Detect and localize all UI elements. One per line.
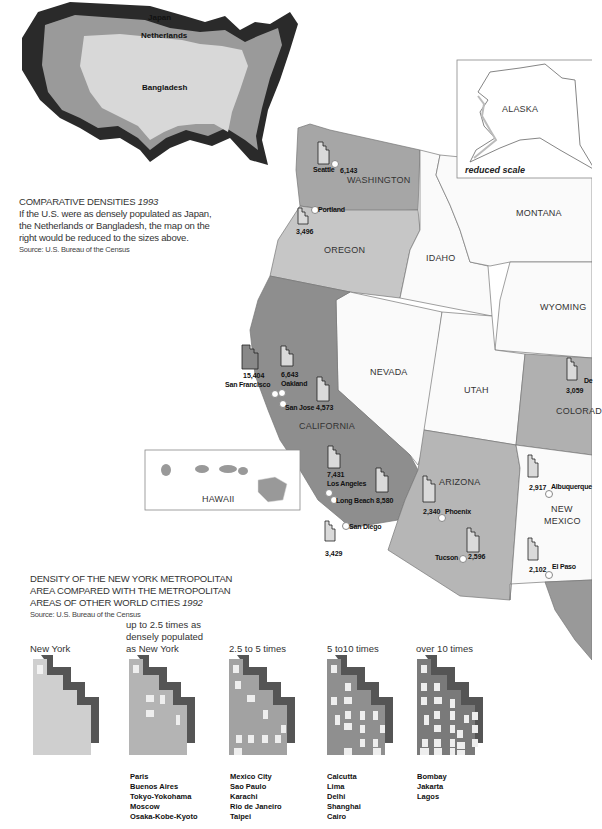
category-label-5-to-10: 5 to10 times [327,643,379,655]
state-label-idaho: IDAHO [426,253,456,263]
category-label-2-5-to-5: 2.5 to 5 times [229,643,286,655]
glyph-new-york [33,655,99,755]
city-dot-oakland [278,389,286,397]
city-value-portland: 3,496 [296,228,314,235]
alaska-reduced-scale-note: reduced scale [465,165,525,175]
state-label-colorado: COLORAD [556,406,602,416]
state-texas-edge [545,580,592,660]
nyc-title-line: AREA COMPARED WITH THE METROPOLITAN [30,585,310,597]
city-label-seattle: Seattle [313,166,335,173]
glyph-2-5-to-5 [229,655,295,755]
hawaii-island [219,465,237,473]
city-value-san-francisco: 15,404 [243,372,264,379]
state-label-arizona: ARIZONA [439,477,480,487]
state-label-montana: MONTANA [516,208,562,218]
hawaii-label: HAWAII [202,494,235,504]
alaska-label: ALASKA [502,104,538,114]
state-label-washington: WASHINGTON [347,175,411,185]
state-label-utah: UTAH [464,385,489,395]
state-label-nevada: NEVADA [370,367,408,377]
city-value-seattle: 6,143 [340,167,358,174]
city-value-albuquerque: 2,917 [529,484,547,491]
city-label-san-francisco: San Francisco [225,381,270,388]
city-value-san-diego: 3,429 [325,550,343,557]
city-label-el-paso: El Paso [552,563,576,570]
city-value-long-beach: 8,580 [376,497,394,504]
city-label-albuquerque: Albuquerque [551,483,592,490]
state-label-new-mexico: NEW [551,504,573,514]
density-building-glyphs [0,655,592,765]
city-label-portland: Portland [318,206,345,213]
city-label-phoenix: Phoenix [445,508,471,515]
city-dot-albuquerque [545,490,553,498]
nyc-year: 1992 [182,597,202,608]
state-label-oregon: OREGON [324,245,365,255]
nyc-title-line: AREAS OF OTHER WORLD CITIES [30,597,180,608]
category-label-over-10: over 10 times [416,643,473,655]
glyph-5-to-10 [327,655,393,755]
city-list-2-5-to-5: Mexico CitySao PauloKarachiRio de Janeir… [230,772,282,822]
state-colorado [516,354,592,455]
state-label-wyoming: WYOMING [540,302,586,312]
city-value-los-angeles: 7,431 [327,471,345,478]
nyc-density-caption: DENSITY OF THE NEW YORK METROPOLITAN ARE… [30,573,310,621]
city-dot-tucson [459,555,467,563]
state-label-new-mexico-2: MEXICO [544,516,581,526]
city-value-el-paso: 2,102 [529,566,547,573]
city-label-san-jose: San Jose [285,404,314,411]
city-label-denver: De [584,377,593,384]
city-label-long-beach: Long Beach [336,497,374,504]
city-value-tucson: 2,596 [468,553,486,560]
glyph-up-to-2-5 [129,655,195,755]
hawaii-island [238,467,248,475]
hawaii-island [195,465,209,473]
city-value-oakland: 6,643 [281,371,299,378]
city-label-los-angeles: Los Angeles [327,480,366,487]
city-value-denver: 3,059 [566,387,584,394]
city-label-san-diego: San Diego [349,523,381,530]
state-label-california: CALIFORNIA [299,421,355,431]
city-dot-phoenix [438,514,446,522]
city-list-up-to-2-5: ParisBuenos AiresTokyo-YokohamaMoscowOsa… [130,772,198,822]
city-value-san-jose: 4,573 [316,404,334,411]
city-label-tucson: Tucson [435,554,458,561]
city-label-oakland: Oakland [281,380,307,387]
glyph-over-10 [417,655,483,755]
city-list-5-to-10: CalcuttaLimaDelhiShanghaiCairo [327,772,361,822]
hawaii-island [161,464,171,476]
city-list-over-10: BombayJakartaLagos [417,772,447,802]
category-label-new-york: New York [30,643,70,655]
city-value-phoenix: 2,340 [423,508,441,515]
category-label-up-to-2-5: up to 2.5 times asdensely populatedas Ne… [126,619,203,655]
nyc-title-line: DENSITY OF THE NEW YORK METROPOLITAN [30,573,310,585]
